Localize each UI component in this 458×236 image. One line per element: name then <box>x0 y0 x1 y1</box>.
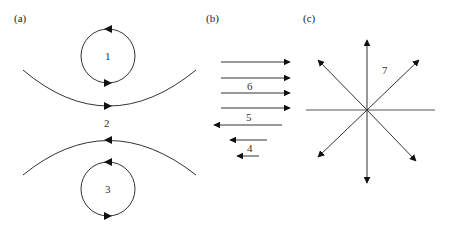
region-1-label: 1 <box>105 50 111 62</box>
panel-b-label: (b) <box>206 12 219 25</box>
panel-b: (b) 6 5 4 <box>206 12 290 156</box>
region-5-label: 5 <box>246 111 252 123</box>
arrow-left-icon <box>104 158 112 166</box>
arrow-down-right <box>367 110 416 161</box>
arrow-down-left <box>318 110 367 157</box>
panel-c: (c) 7 <box>303 12 435 183</box>
arrow-left-icon <box>104 25 112 33</box>
arrow-up-left <box>318 60 367 110</box>
panel-c-label: (c) <box>303 12 316 25</box>
arrow-right-icon <box>104 102 112 110</box>
arrow-up-right <box>367 60 419 110</box>
arrow-right-icon <box>104 212 112 220</box>
region-4-label: 4 <box>247 142 253 154</box>
region-7-label: 7 <box>382 64 388 76</box>
region-2-label: 2 <box>104 117 110 129</box>
region-6-label: 6 <box>247 80 253 92</box>
panel-a: (a) 1 2 3 <box>14 12 196 220</box>
lower-flow-arc <box>23 141 196 176</box>
arrow-right-icon <box>104 79 112 87</box>
arrow-left-icon <box>104 136 112 144</box>
panel-a-label: (a) <box>14 12 27 25</box>
region-3-label: 3 <box>105 183 111 195</box>
upper-flow-arc <box>23 70 196 106</box>
figure-canvas: (a) 1 2 3 (b) 6 5 4 (c) <box>0 0 458 236</box>
